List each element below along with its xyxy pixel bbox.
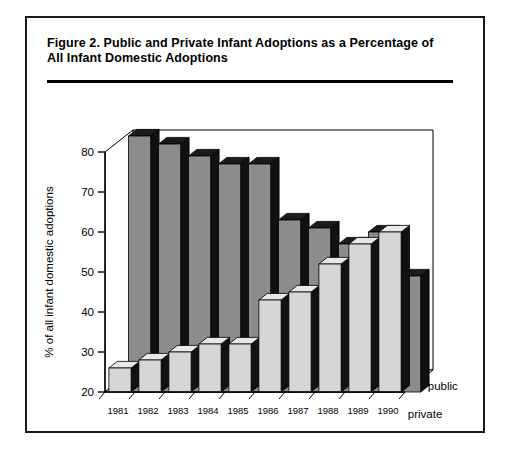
figure-title: Figure 2. Public and Private Infant Adop… (47, 36, 457, 66)
x-tick-label: 1989 (347, 405, 368, 416)
bar (139, 353, 170, 392)
bar (379, 225, 410, 392)
figure-title-line-1: Figure 2. Public and Private Infant Adop… (47, 36, 434, 50)
x-tick-labels-group: 1981198219831984198519861987198819891990 (107, 405, 398, 416)
bar (229, 337, 260, 392)
legend-label-public: public (428, 380, 458, 392)
y-tick-label: 20 (81, 386, 94, 398)
bar (109, 361, 140, 392)
y-tick-labels-group: 20304050607080 (81, 146, 94, 398)
bar-chart-3d: 20304050607080 1981198219831984198519861… (27, 88, 483, 428)
y-tick-label: 60 (81, 226, 94, 238)
x-tick-label: 1985 (227, 405, 248, 416)
bar (349, 237, 380, 392)
x-tick-label: 1984 (197, 405, 218, 416)
x-tick-label: 1990 (377, 405, 398, 416)
y-axis-title-group: % of all infant domestic adoptions (43, 186, 55, 358)
legend-label-private: private (408, 408, 443, 420)
bar (319, 257, 350, 392)
x-tick-label: 1982 (137, 405, 158, 416)
y-tick-label: 40 (81, 306, 94, 318)
figure-title-line-2: All Infant Domestic Adoptions (47, 51, 228, 65)
bar (169, 345, 200, 392)
chart-plot-area: 20304050607080 1981198219831984198519861… (27, 88, 483, 428)
y-tick-label: 50 (81, 266, 94, 278)
figure-page: Figure 2. Public and Private Infant Adop… (0, 0, 509, 459)
y-tick-label: 70 (81, 186, 94, 198)
x-tick-label: 1986 (257, 405, 278, 416)
bar (199, 337, 230, 392)
y-tick-label: 30 (81, 346, 94, 358)
x-tick-label: 1988 (317, 405, 338, 416)
x-tick-label: 1983 (167, 405, 188, 416)
bar (289, 285, 320, 392)
bar (129, 129, 160, 392)
bar (259, 293, 290, 392)
x-tick-label: 1987 (287, 405, 308, 416)
title-rule (47, 80, 453, 83)
y-tick-label: 80 (81, 146, 94, 158)
y-axis-title: % of all infant domestic adoptions (43, 186, 55, 358)
x-tick-label: 1981 (107, 405, 128, 416)
